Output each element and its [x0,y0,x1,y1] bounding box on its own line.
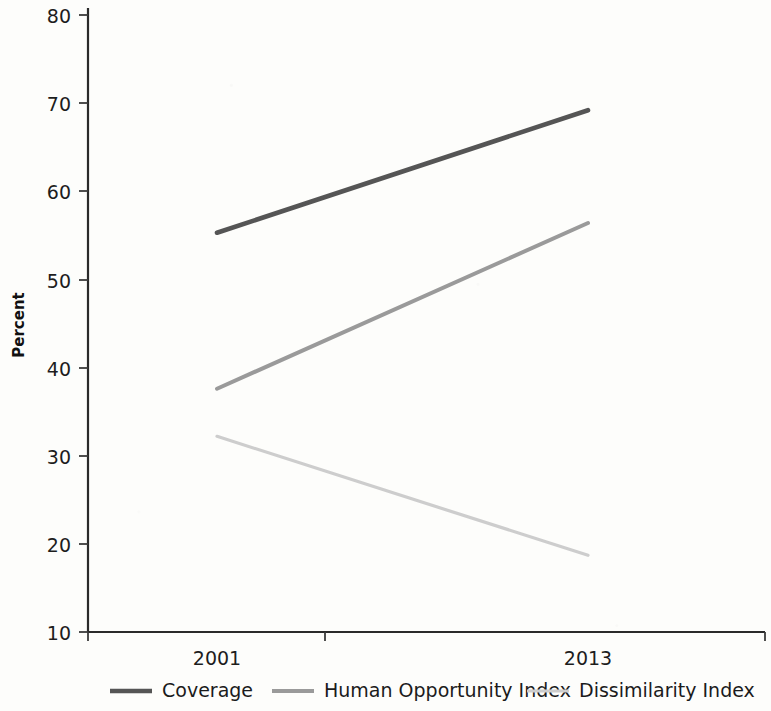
line-chart: 80 70 60 50 40 30 20 10 Percent 2001 201… [0,0,771,711]
y-tick-label-40: 40 [47,358,71,380]
y-tick-label-70: 70 [47,93,71,115]
y-axis-title: Percent [10,292,28,357]
y-tick-label-80: 80 [47,5,71,27]
chart-background [0,0,771,711]
legend-label-dissimilarity-index: Dissimilarity Index [579,679,755,701]
y-tick-label-10: 10 [47,622,71,644]
chart-figure: 80 70 60 50 40 30 20 10 Percent 2001 201… [0,0,771,711]
x-tick-label-2013: 2013 [564,647,612,669]
legend-label-coverage: Coverage [162,679,253,701]
chart-legend: Coverage Human Opportunity Index Dissimi… [110,679,755,701]
x-tick-label-2001: 2001 [193,647,241,669]
y-tick-label-50: 50 [47,270,71,292]
y-tick-label-60: 60 [47,181,71,203]
y-tick-label-30: 30 [47,446,71,468]
y-tick-label-20: 20 [47,534,71,556]
